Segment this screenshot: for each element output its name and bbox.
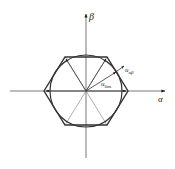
u-lim-label: ulim xyxy=(101,80,111,89)
space-vector-diagram: β α uαβ ulim xyxy=(0,0,175,169)
u-lim-sub: lim xyxy=(105,84,112,89)
beta-axis-label: β xyxy=(88,11,94,22)
u-alphabeta-label: uαβ xyxy=(125,66,134,75)
basic-vector-top-left xyxy=(66,59,86,91)
u-alphabeta-sub: αβ xyxy=(129,70,135,75)
alpha-axis-label: α xyxy=(158,94,163,104)
